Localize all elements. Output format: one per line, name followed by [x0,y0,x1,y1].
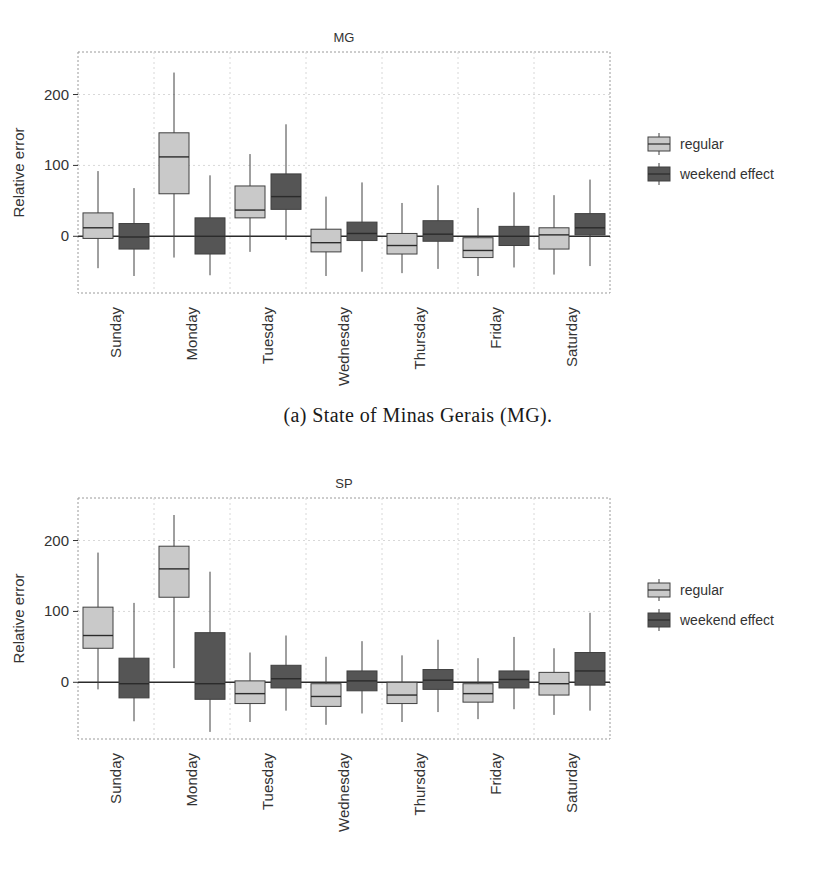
box-rect [83,213,113,239]
boxplot-mg-regular-monday [159,73,189,258]
boxplot-mg-regular-friday [463,208,493,276]
box-rect [423,221,453,242]
legend-item-regular: regular [648,133,724,155]
x-tick-label: Sunday [107,753,124,804]
boxplot-sp-weekend-effect-thursday [423,640,453,712]
x-tick-label: Thursday [411,753,428,816]
box-rect [423,670,453,690]
boxplot-mg-weekend-effect-friday [499,192,529,267]
chart-title: SP [335,476,352,491]
x-tick-label: Wednesday [335,753,352,832]
box-rect [463,238,493,258]
box-rect [311,229,341,252]
boxplot-chart-sp: SP0100200SundayMondayTuesdayWednesdayThu… [0,446,836,846]
boxplot-sp-regular-thursday [387,655,417,722]
boxplot-mg-weekend-effect-tuesday [271,124,301,240]
box-rect [235,681,265,704]
chart-title: MG [334,30,355,45]
y-axis-label: Relative error [10,127,27,217]
box-rect [271,174,301,209]
box-rect [195,633,225,700]
legend-label: weekend effect [679,612,774,628]
x-axis-label: Day of the week [290,843,398,846]
boxplot-mg-regular-tuesday [235,154,265,252]
boxplot-mg-weekend-effect-thursday [423,185,453,269]
box-rect [159,133,189,194]
box-rect [83,607,113,648]
boxplot-sp-weekend-effect-saturday [575,613,605,711]
boxplot-sp-regular-monday [159,515,189,668]
y-tick-label: 0 [61,227,69,244]
boxplot-mg-weekend-effect-monday [195,175,225,275]
y-tick-label: 0 [61,673,69,690]
boxplot-mg-weekend-effect-saturday [575,180,605,266]
box-rect [463,684,493,702]
y-axis-label: Relative error [10,573,27,663]
legend-label: regular [680,582,724,598]
x-tick-label: Sunday [107,307,124,358]
boxplot-mg-regular-thursday [387,203,417,273]
plot-area-mg: MG0100200SundayMondayTuesdayWednesdayThu… [0,0,836,400]
boxplot-sp-regular-sunday [83,553,113,690]
box-rect [271,665,301,688]
box-rect [387,233,417,254]
boxplot-sp-weekend-effect-tuesday [271,636,301,711]
boxplot-mg-regular-wednesday [311,197,341,276]
box-rect [539,228,569,249]
box-rect [159,546,189,597]
box-rect [119,658,149,698]
boxplot-sp-regular-tuesday [235,653,265,722]
boxplot-mg-weekend-effect-wednesday [347,182,377,271]
boxplot-mg-weekend-effect-sunday [119,188,149,276]
box-rect [575,214,605,235]
box-rect [347,222,377,240]
x-tick-label: Saturday [563,307,580,368]
plot-area-sp: SP0100200SundayMondayTuesdayWednesdayThu… [0,446,836,846]
legend-label: regular [680,136,724,152]
x-tick-label: Saturday [563,753,580,814]
y-tick-label: 200 [44,86,69,103]
plot-frame [78,52,610,293]
legend-item-regular: regular [648,579,724,601]
x-tick-label: Friday [487,307,504,349]
boxplot-sp-weekend-effect-wednesday [347,641,377,713]
figure-caption-a: (a) State of Minas Gerais (MG). [0,404,836,427]
legend-item-weekend-effect: weekend effect [648,609,774,631]
x-tick-label: Tuesday [259,753,276,810]
boxplot-sp-regular-wednesday [311,657,341,725]
plot-frame [78,498,610,739]
x-tick-label: Thursday [411,307,428,370]
y-tick-label: 200 [44,532,69,549]
box-rect [387,682,417,703]
y-tick-label: 100 [44,156,69,173]
boxplot-mg-regular-sunday [83,171,113,268]
boxplot-chart-mg: MG0100200SundayMondayTuesdayWednesdayThu… [0,0,836,400]
legend-label: weekend effect [679,166,774,182]
x-axis-label: Day of the week [290,397,398,400]
y-tick-label: 100 [44,602,69,619]
box-rect [119,224,149,250]
boxplot-mg-regular-saturday [539,195,569,274]
legend-item-weekend-effect: weekend effect [648,163,774,185]
figure-mg: MG0100200SundayMondayTuesdayWednesdayThu… [0,0,836,445]
x-tick-label: Tuesday [259,307,276,364]
boxplot-sp-weekend-effect-sunday [119,603,149,721]
box-rect [235,186,265,218]
x-tick-label: Monday [183,307,200,361]
box-rect [311,684,341,707]
x-tick-label: Friday [487,753,504,795]
boxplot-sp-regular-friday [463,658,493,719]
box-rect [575,653,605,686]
x-tick-label: Monday [183,753,200,807]
boxplot-sp-weekend-effect-friday [499,637,529,709]
x-tick-label: Wednesday [335,307,352,386]
boxplot-sp-regular-saturday [539,648,569,715]
boxplot-sp-weekend-effect-monday [195,572,225,732]
figure-sp: SP0100200SundayMondayTuesdayWednesdayThu… [0,446,836,891]
